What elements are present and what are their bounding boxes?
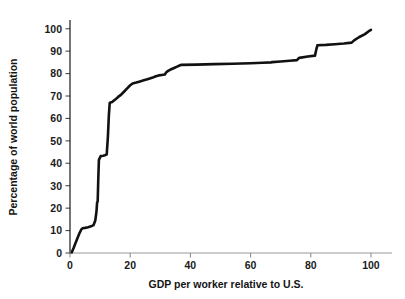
x-tick-label: 40 bbox=[185, 259, 197, 271]
y-tick-label: 40 bbox=[50, 157, 62, 169]
x-tick-label: 80 bbox=[305, 259, 317, 271]
y-tick-label: 10 bbox=[50, 224, 62, 236]
x-tick-label: 60 bbox=[245, 259, 257, 271]
y-tick-label: 30 bbox=[50, 180, 62, 192]
y-tick-label: 100 bbox=[44, 23, 62, 35]
y-tick-label: 50 bbox=[50, 135, 62, 147]
y-tick-label: 90 bbox=[50, 45, 62, 57]
chart-figure: 0102030405060708090100 020406080100 GDP … bbox=[0, 0, 405, 299]
y-tick-label: 70 bbox=[50, 90, 62, 102]
y-tick-label: 80 bbox=[50, 67, 62, 79]
x-axis-title: GDP per worker relative to U.S. bbox=[148, 278, 303, 290]
x-tick-label: 20 bbox=[124, 259, 136, 271]
y-tick-label: 20 bbox=[50, 202, 62, 214]
y-tick-label: 60 bbox=[50, 112, 62, 124]
x-tick-label: 100 bbox=[362, 259, 380, 271]
x-tick-label: 0 bbox=[67, 259, 73, 271]
y-tick-label: 0 bbox=[56, 247, 62, 259]
y-axis-title: Percentage of world population bbox=[7, 59, 19, 216]
cumulative-distribution-chart: 0102030405060708090100 020406080100 GDP … bbox=[0, 0, 405, 299]
